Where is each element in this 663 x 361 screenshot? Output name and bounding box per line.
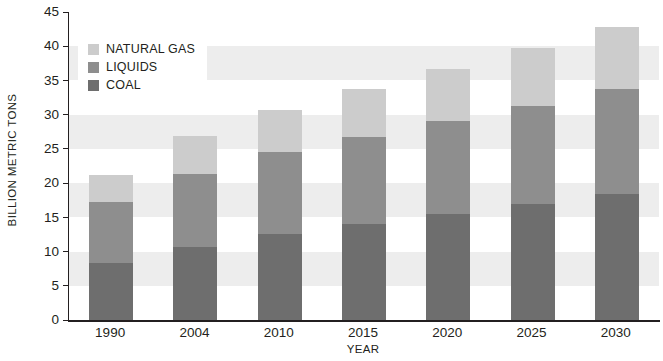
bar-group[interactable] xyxy=(511,12,555,320)
x-axis-title: YEAR xyxy=(68,343,658,355)
bar-segment-coal[interactable] xyxy=(342,224,386,320)
y-axis-title-text: BILLION METRIC TONS xyxy=(6,94,18,227)
y-axis-tick-label: 40 xyxy=(44,39,63,53)
bar-segment-liquids[interactable] xyxy=(342,137,386,225)
y-axis-tick-label: 0 xyxy=(51,313,63,327)
bar-segment-natural-gas[interactable] xyxy=(511,48,555,105)
bar-segment-natural-gas[interactable] xyxy=(595,27,639,89)
x-axis-tick-label: 2030 xyxy=(574,325,658,340)
x-axis-tick-label: 2015 xyxy=(321,325,405,340)
bar-segment-liquids[interactable] xyxy=(426,121,470,214)
bar-segment-coal[interactable] xyxy=(426,214,470,320)
bar-segment-natural-gas[interactable] xyxy=(342,89,386,137)
bar-segment-coal[interactable] xyxy=(89,263,133,320)
y-axis-title: BILLION METRIC TONS xyxy=(0,0,24,320)
bar-group[interactable] xyxy=(342,12,386,320)
y-axis-tick-label: 30 xyxy=(44,108,63,122)
legend: NATURAL GASLIQUIDSCOAL xyxy=(78,36,207,99)
legend-item-label: NATURAL GAS xyxy=(106,42,195,56)
y-axis-tick-label: 25 xyxy=(44,142,63,156)
x-axis-tick-label: 2010 xyxy=(237,325,321,340)
legend-item[interactable]: NATURAL GAS xyxy=(88,41,195,57)
bar-segment-coal[interactable] xyxy=(511,204,555,320)
y-axis-tick-label: 10 xyxy=(44,245,63,259)
bar-group[interactable] xyxy=(426,12,470,320)
bar-group[interactable] xyxy=(595,12,639,320)
bar-segment-liquids[interactable] xyxy=(89,202,133,264)
bar-segment-coal[interactable] xyxy=(258,234,302,320)
bar-segment-coal[interactable] xyxy=(595,194,639,320)
y-axis: 454035302520151050 xyxy=(24,0,68,327)
bar-segment-natural-gas[interactable] xyxy=(426,69,470,121)
legend-swatch-icon xyxy=(88,44,99,55)
y-axis-tick-label: 20 xyxy=(44,176,63,190)
x-axis-tick-label: 2004 xyxy=(152,325,236,340)
y-axis-tick-label: 5 xyxy=(51,279,63,293)
bar-group[interactable] xyxy=(258,12,302,320)
x-axis-tick-label: 1990 xyxy=(68,325,152,340)
x-axis-tick-labels: 1990200420102015202020252030 xyxy=(68,322,658,344)
legend-swatch-icon xyxy=(88,80,99,91)
bar-segment-coal[interactable] xyxy=(173,247,217,320)
bar-segment-natural-gas[interactable] xyxy=(258,110,302,152)
stacked-bar-chart: BILLION METRIC TONS 454035302520151050 1… xyxy=(0,0,663,361)
bar-segment-natural-gas[interactable] xyxy=(89,175,133,202)
bar-segment-liquids[interactable] xyxy=(595,89,639,194)
bar-segment-liquids[interactable] xyxy=(173,174,217,248)
y-axis-tick-label: 45 xyxy=(44,5,63,19)
x-axis-tick-label: 2020 xyxy=(405,325,489,340)
bar-segment-liquids[interactable] xyxy=(511,106,555,204)
legend-item-label: LIQUIDS xyxy=(106,60,157,74)
x-axis-tick-label: 2025 xyxy=(489,325,573,340)
y-axis-tick-label: 35 xyxy=(44,74,63,88)
legend-swatch-icon xyxy=(88,62,99,73)
legend-item[interactable]: COAL xyxy=(88,77,195,93)
bar-segment-liquids[interactable] xyxy=(258,152,302,233)
legend-item-label: COAL xyxy=(106,78,141,92)
y-axis-tick-label: 15 xyxy=(44,211,63,225)
legend-item[interactable]: LIQUIDS xyxy=(88,59,195,75)
bar-segment-natural-gas[interactable] xyxy=(173,136,217,174)
